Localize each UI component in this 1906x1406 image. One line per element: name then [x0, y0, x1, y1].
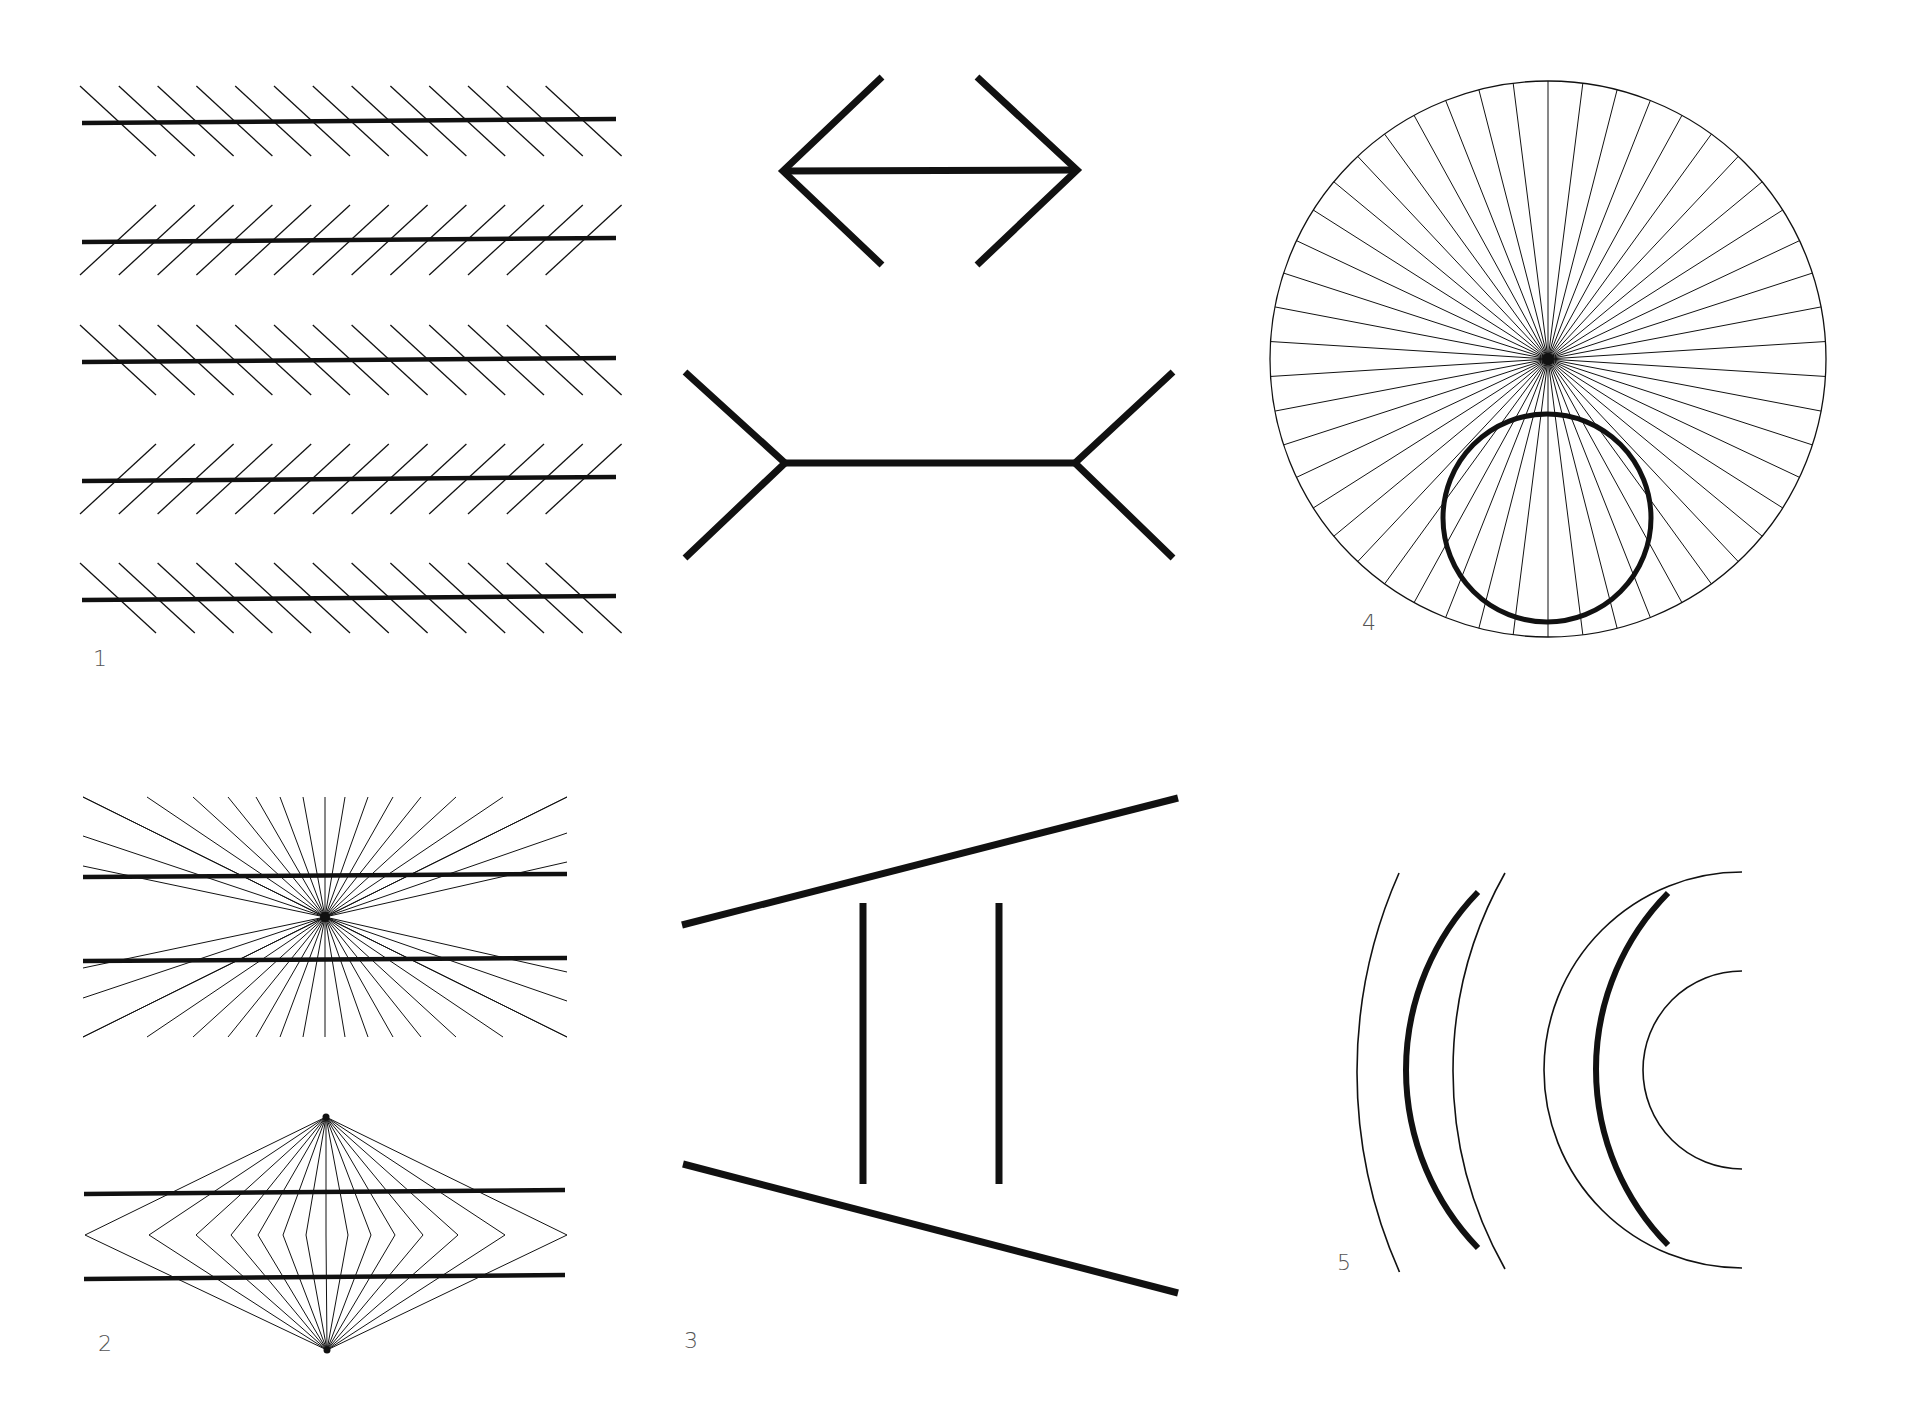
radial-spoke [1271, 359, 1548, 376]
radial-spoke [1548, 359, 1617, 628]
hering-ray [256, 797, 325, 917]
figure-label-2: 2 [98, 1333, 112, 1355]
ponzo-figure [682, 798, 1178, 1293]
radial-hub [1542, 353, 1554, 365]
muller-bottom-right-fin [1075, 372, 1173, 558]
radial-spoke [1548, 359, 1800, 477]
radial-spoke [1548, 359, 1825, 376]
wundt-bent-ray [306, 1117, 327, 1350]
figure-label-1: 1 [93, 648, 107, 670]
wundt-bent-ray [326, 1117, 505, 1350]
hering-ray [256, 917, 325, 1037]
wundt-bent-ray [326, 1117, 348, 1350]
hering-ray [303, 917, 325, 1037]
figure-label-5: 5 [1337, 1252, 1351, 1274]
arcs-figure [1357, 872, 1742, 1272]
radial-inner-circle [1443, 414, 1651, 622]
wundt-top-vertex [323, 1114, 330, 1121]
hering-ray [280, 917, 325, 1037]
hering-ray [193, 917, 325, 1037]
radial-spoke [1548, 101, 1650, 359]
wundt-bent-ray [326, 1117, 395, 1350]
wundt-bent-ray [326, 1117, 567, 1350]
radial-spoke [1548, 359, 1762, 536]
hering-ray [325, 917, 421, 1037]
radial-spoke [1548, 182, 1762, 359]
hering-ray [147, 797, 325, 917]
hering-figure [83, 797, 567, 1037]
muller-lyer-figure [685, 77, 1173, 558]
radial-spoke [1479, 359, 1548, 628]
radial-spoke [1479, 90, 1548, 359]
illusion-plate [0, 0, 1906, 1406]
figure-label-3: 3 [684, 1330, 698, 1352]
radial-spoke [1548, 90, 1617, 359]
wundt-bent-ray [149, 1117, 327, 1350]
wundt-bent-ray [231, 1117, 327, 1350]
hering-ray [228, 797, 325, 917]
wundt-bent-ray [258, 1117, 327, 1350]
arc-thin-reference [1357, 873, 1399, 1272]
hering-ray [325, 917, 503, 1037]
ponzo-converging-bottom [683, 1164, 1178, 1293]
wundt-parallel-line [84, 1190, 565, 1194]
hering-vanishing-point [320, 912, 330, 922]
arc-thick-left [1406, 892, 1478, 1248]
hering-parallel-line [83, 874, 567, 877]
hering-ray [325, 917, 567, 972]
zollner-figure [80, 86, 622, 633]
radial-spoke [1296, 241, 1548, 359]
hering-ray [303, 797, 325, 917]
radial-spoke [1334, 182, 1548, 359]
hering-ray [228, 917, 325, 1037]
wundt-bent-ray [326, 1117, 458, 1350]
hering-ray [325, 797, 456, 917]
hering-ray [280, 797, 325, 917]
radial-spoke [1548, 359, 1650, 617]
hering-ray [325, 917, 456, 1037]
muller-top-shaft [783, 170, 1077, 171]
muller-bottom-left-fin [685, 372, 785, 558]
wundt-figure [84, 1114, 567, 1354]
radial-spoke [1548, 342, 1825, 359]
hering-ray [325, 862, 567, 917]
radial-spoke [1446, 101, 1548, 359]
hering-ray [83, 917, 325, 1037]
hering-ray [325, 797, 503, 917]
wundt-bent-ray [326, 1117, 327, 1350]
arc-thin-reference [1453, 873, 1505, 1269]
wundt-bent-ray [196, 1117, 327, 1350]
arc-inner-semicircle [1643, 971, 1742, 1169]
figure-label-4: 4 [1362, 612, 1376, 634]
hering-ray [147, 917, 325, 1037]
radial-spoke [1271, 342, 1548, 359]
hering-parallel-line [83, 958, 567, 961]
hering-ray [83, 797, 325, 917]
ponzo-converging-top [682, 798, 1178, 925]
radial-circle-figure [1270, 81, 1826, 637]
radial-spoke [1548, 241, 1800, 359]
wundt-bent-ray [85, 1117, 327, 1350]
wundt-bottom-vertex [324, 1347, 331, 1354]
wundt-parallel-line [84, 1275, 565, 1279]
arc-thick-right [1596, 893, 1668, 1245]
hering-ray [193, 797, 325, 917]
hering-ray [325, 797, 421, 917]
